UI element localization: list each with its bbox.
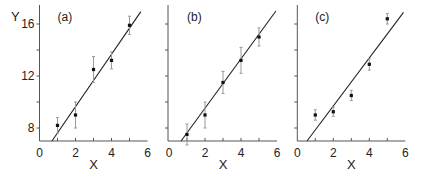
x-tick-label: 6 bbox=[144, 146, 151, 160]
data-point bbox=[386, 17, 389, 20]
y-tick-label: 12 bbox=[21, 69, 35, 83]
y-tick-label: 8 bbox=[28, 121, 35, 135]
x-tick-label: 2 bbox=[72, 146, 79, 160]
data-point bbox=[350, 94, 353, 97]
y-axis-label: Y bbox=[11, 9, 20, 24]
data-point bbox=[257, 35, 260, 38]
panel-label: (a) bbox=[58, 10, 73, 24]
figure: 812160246XY(a) 0246X(b) 0246X(c) bbox=[0, 0, 422, 181]
x-tick-label: 6 bbox=[274, 146, 281, 160]
x-tick-label: 6 bbox=[402, 146, 409, 160]
y-tick-label: 16 bbox=[21, 17, 35, 31]
fit-line bbox=[52, 12, 141, 141]
x-tick-label: 4 bbox=[238, 146, 245, 160]
x-tick-label: 0 bbox=[166, 146, 173, 160]
data-point bbox=[203, 113, 206, 116]
data-point bbox=[128, 24, 131, 27]
panel-a: 812160246XY(a) bbox=[11, 5, 151, 172]
x-axis-label: X bbox=[219, 157, 228, 172]
panel-b: 0246X(b) bbox=[165, 5, 281, 172]
data-point bbox=[92, 68, 95, 71]
x-tick-label: 0 bbox=[36, 146, 43, 160]
panel-label: (b) bbox=[187, 10, 202, 24]
fit-line bbox=[307, 12, 403, 141]
fit-line bbox=[181, 11, 276, 141]
data-point bbox=[314, 113, 317, 116]
panel-label: (c) bbox=[315, 10, 329, 24]
x-tick-label: 0 bbox=[294, 146, 301, 160]
x-tick-label: 2 bbox=[202, 146, 209, 160]
data-point bbox=[110, 59, 113, 62]
data-point bbox=[56, 124, 59, 127]
data-point bbox=[74, 113, 77, 116]
x-tick-label: 2 bbox=[330, 146, 337, 160]
x-axis-label: X bbox=[89, 157, 98, 172]
data-point bbox=[332, 110, 335, 113]
chart-canvas: 812160246XY(a) 0246X(b) 0246X(c) bbox=[0, 0, 422, 181]
data-point bbox=[239, 59, 242, 62]
data-point bbox=[221, 81, 224, 84]
panel-c: 0246X(c) bbox=[294, 5, 409, 172]
x-tick-label: 4 bbox=[108, 146, 115, 160]
x-axis-label: X bbox=[347, 157, 356, 172]
data-point bbox=[368, 63, 371, 66]
x-tick-label: 4 bbox=[366, 146, 373, 160]
data-point bbox=[185, 133, 188, 136]
